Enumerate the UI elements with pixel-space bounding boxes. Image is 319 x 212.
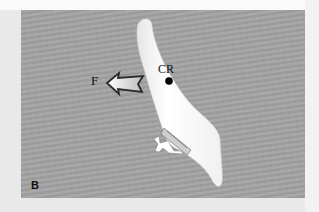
page-margin-right	[305, 0, 319, 212]
force-arrow-icon	[107, 73, 143, 94]
page-margin-top	[0, 0, 319, 10]
figure-panel: F CR B	[21, 10, 305, 198]
center-of-resistance-marker	[165, 77, 173, 85]
tooth-diagram	[21, 10, 305, 198]
center-of-resistance-label: CR	[158, 62, 174, 77]
panel-letter: B	[31, 179, 39, 191]
force-label: F	[91, 73, 98, 89]
tooth-shape	[137, 19, 222, 186]
